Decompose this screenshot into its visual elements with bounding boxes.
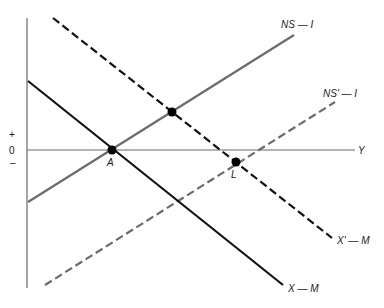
x-prime-m-curve: [53, 18, 332, 238]
point-a-label: A: [106, 157, 114, 168]
x-m-label: X — M: [287, 283, 319, 294]
x-m-curve: [28, 81, 283, 285]
tick-plus: +: [9, 129, 15, 140]
horizontal-axis-label: Y: [358, 145, 366, 156]
x-prime-m-label: X' — M: [336, 235, 370, 246]
point-intersection: [168, 108, 177, 117]
tick-zero: 0: [9, 145, 15, 156]
economics-diagram: + 0 – Y NS — I NS' — I X — M X' — M A L: [0, 0, 384, 308]
ns-i-label: NS — I: [281, 19, 313, 30]
tick-minus: –: [10, 157, 16, 168]
point-a: [108, 146, 117, 155]
point-l-label: L: [231, 169, 237, 180]
point-l: [232, 158, 241, 167]
ns-prime-i-label: NS' — I: [323, 88, 357, 99]
